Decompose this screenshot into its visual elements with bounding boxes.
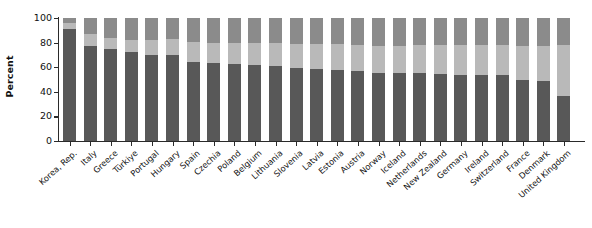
bar-segment-segment-top xyxy=(145,18,158,40)
x-tick-mark xyxy=(399,142,400,146)
bar-segment-segment-bottom xyxy=(496,75,509,141)
x-tick-mark xyxy=(90,142,91,146)
bar-segment-segment-top xyxy=(269,18,282,43)
bar xyxy=(413,18,426,141)
bar-segment-segment-bottom xyxy=(125,52,138,141)
bar-segment-segment-middle xyxy=(248,43,261,65)
bar-segment-segment-top xyxy=(496,18,509,45)
bar-segment-segment-top xyxy=(351,18,364,45)
bar-segment-segment-middle xyxy=(269,43,282,66)
bar xyxy=(434,18,447,141)
bar-segment-segment-top xyxy=(331,18,344,44)
x-tick-label-text: United Kingdom xyxy=(516,148,572,200)
x-tick-mark xyxy=(131,142,132,146)
bar-segment-segment-middle xyxy=(413,45,426,73)
bar-segment-segment-bottom xyxy=(248,65,261,141)
bar xyxy=(331,18,344,141)
x-tick-label-text: New Zealand xyxy=(402,148,449,192)
bar-segment-segment-bottom xyxy=(475,75,488,141)
x-tick-mark xyxy=(255,142,256,146)
plot-area xyxy=(59,18,585,141)
bar-segment-segment-middle xyxy=(475,45,488,75)
x-tick-mark xyxy=(276,142,277,146)
y-axis-title: Percent xyxy=(2,28,16,124)
bar-segment-segment-middle xyxy=(310,44,323,69)
bar-segment-segment-top xyxy=(207,18,220,43)
bar xyxy=(145,18,158,141)
x-tick-label-text: Norway xyxy=(357,148,387,176)
x-tick-mark xyxy=(214,142,215,146)
bar xyxy=(496,18,509,141)
bar-segment-segment-middle xyxy=(63,23,76,29)
bar-segment-segment-middle xyxy=(290,44,303,68)
bar-segment-segment-middle xyxy=(166,39,179,55)
x-tick-mark xyxy=(564,142,565,146)
bar-segment-segment-top xyxy=(310,18,323,44)
x-tick-label-text: Slovenia xyxy=(272,148,305,179)
bar-segment-segment-middle xyxy=(351,45,364,71)
x-tick-label-text: Portugal xyxy=(128,148,160,178)
x-tick-label-text: Latvia xyxy=(300,148,325,172)
x-tick-mark xyxy=(420,142,421,146)
x-tick-mark xyxy=(193,142,194,146)
bar-segment-segment-middle xyxy=(537,46,550,82)
bar-segment-segment-bottom xyxy=(207,63,220,141)
bar xyxy=(475,18,488,141)
x-tick-label-text: Italy xyxy=(79,148,99,167)
bar-segment-segment-bottom xyxy=(516,80,529,142)
x-tick-label-text: Hungary xyxy=(148,148,181,179)
x-tick-mark xyxy=(152,142,153,146)
bar-segment-segment-bottom xyxy=(454,75,467,141)
bar-segment-segment-middle xyxy=(145,40,158,55)
bar-segment-segment-bottom xyxy=(434,74,447,141)
bar-segment-segment-top xyxy=(413,18,426,45)
bar xyxy=(351,18,364,141)
x-tick-label-text: Estonia xyxy=(317,148,346,176)
bar-segment-segment-top xyxy=(248,18,261,43)
bar-segment-segment-bottom xyxy=(63,29,76,141)
x-tick-label-text: Iceland xyxy=(379,148,408,176)
x-axis-line xyxy=(58,141,585,142)
bar xyxy=(207,18,220,141)
bar-segment-segment-middle xyxy=(393,46,406,74)
x-tick-label-text: Korea, Rep. xyxy=(36,148,78,187)
y-tick-label-text: 100 xyxy=(26,13,52,23)
x-tick-label-text: Ireland xyxy=(462,148,490,175)
x-tick-mark xyxy=(234,142,235,146)
y-tick-label-text: 80 xyxy=(26,38,52,48)
bar-segment-segment-middle xyxy=(207,43,220,63)
x-tick-mark xyxy=(440,142,441,146)
bar-segment-segment-middle xyxy=(454,45,467,75)
bar-segment-segment-top xyxy=(84,18,97,34)
y-tick-label-text: 20 xyxy=(26,111,52,121)
bar xyxy=(372,18,385,141)
x-tick-mark xyxy=(482,142,483,146)
x-tick-mark xyxy=(70,142,71,146)
bar xyxy=(557,18,570,141)
bar-segment-segment-top xyxy=(228,18,241,43)
bar xyxy=(125,18,138,141)
bar-segment-segment-middle xyxy=(125,40,138,52)
x-tick-mark xyxy=(358,142,359,146)
bar xyxy=(63,18,76,141)
bar xyxy=(187,18,200,141)
x-tick-label-text: Poland xyxy=(216,148,243,174)
bar-segment-segment-bottom xyxy=(84,46,97,141)
x-tick-mark xyxy=(296,142,297,146)
bar-segment-segment-bottom xyxy=(351,71,364,141)
y-tick-label-text: 0 xyxy=(26,136,52,146)
bar xyxy=(454,18,467,141)
x-tick-mark xyxy=(502,142,503,146)
bar xyxy=(84,18,97,141)
bar-segment-segment-bottom xyxy=(557,96,570,142)
bar xyxy=(166,18,179,141)
bar-segment-segment-middle xyxy=(331,44,344,69)
bar-segment-segment-bottom xyxy=(228,64,241,141)
bar-segment-segment-top xyxy=(104,18,117,38)
stacked-bar-chart: Percent 100806040200 Korea, Rep.ItalyGre… xyxy=(0,0,592,228)
x-tick-label-text: Türkiye xyxy=(111,148,140,175)
bar-segment-segment-bottom xyxy=(331,70,344,141)
x-tick-mark xyxy=(543,142,544,146)
bar xyxy=(310,18,323,141)
bar-segment-segment-middle xyxy=(187,42,200,62)
